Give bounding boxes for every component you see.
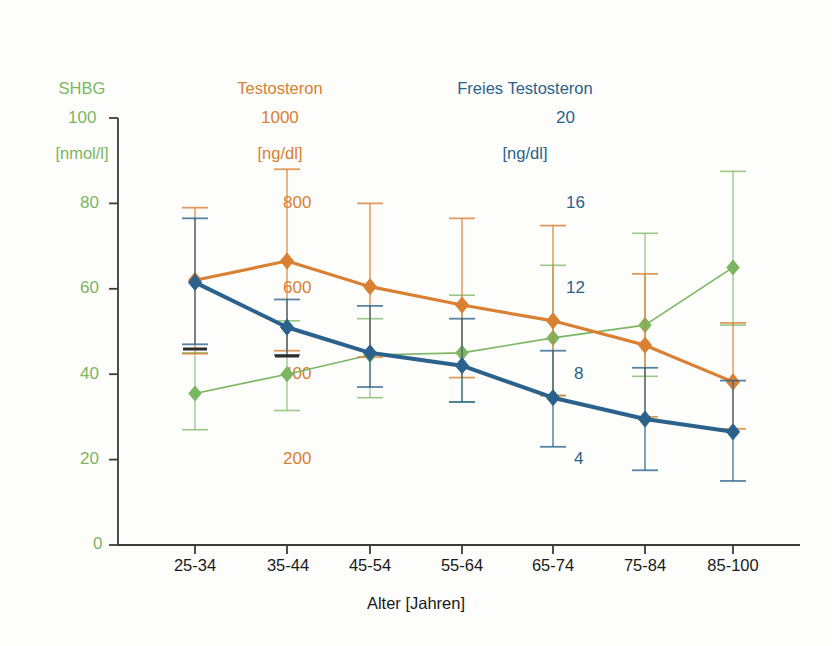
- data-point-marker: [280, 253, 293, 269]
- data-point-marker: [280, 319, 293, 335]
- data-point-marker: [281, 367, 293, 382]
- series-line: [195, 267, 733, 393]
- data-point-marker: [546, 390, 559, 406]
- data-point-marker: [726, 424, 739, 440]
- chart-figure: SHBG [nmol/l] Testosteron [ng/dl] Freies…: [0, 0, 832, 646]
- plot-area: [0, 0, 832, 646]
- data-point-marker: [638, 337, 651, 353]
- x-label-3: 55-64: [412, 556, 512, 575]
- data-point-marker: [727, 260, 739, 275]
- data-point-marker: [189, 386, 201, 401]
- series-testosteron: [182, 169, 746, 429]
- data-point-marker: [638, 411, 651, 427]
- x-label-6: 85-100: [681, 556, 785, 575]
- x-label-2: 45-54: [320, 556, 420, 575]
- data-point-marker: [363, 279, 376, 295]
- data-point-marker: [455, 358, 468, 374]
- data-point-marker: [455, 297, 468, 313]
- data-point-marker: [188, 274, 201, 290]
- x-label-4: 65-74: [503, 556, 603, 575]
- x-label-0: 25-34: [145, 556, 245, 575]
- data-point-marker: [546, 313, 559, 329]
- data-point-marker: [363, 345, 376, 361]
- x-axis-title: Alter [Jahren]: [0, 594, 832, 613]
- x-label-5: 75-84: [595, 556, 695, 575]
